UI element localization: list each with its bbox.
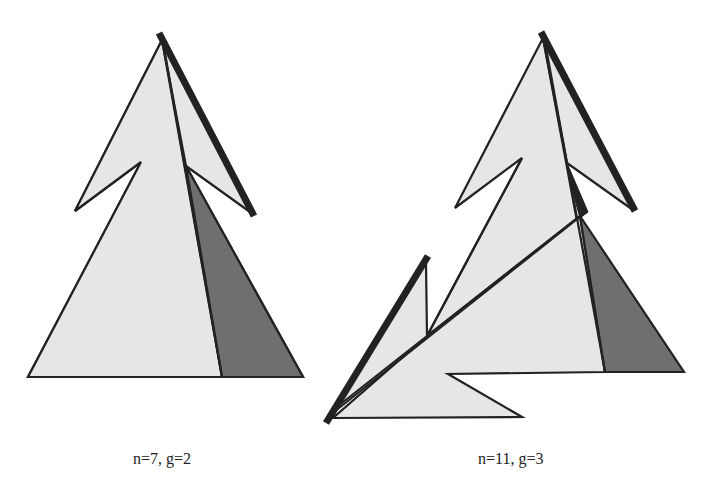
figure-left: [28, 33, 303, 377]
right-lower-body: [333, 216, 605, 418]
figure-right: [326, 32, 684, 423]
caption-right: n=11, g=3: [478, 450, 543, 468]
diagram-canvas: [0, 0, 708, 496]
caption-left: n=7, g=2: [133, 450, 191, 468]
